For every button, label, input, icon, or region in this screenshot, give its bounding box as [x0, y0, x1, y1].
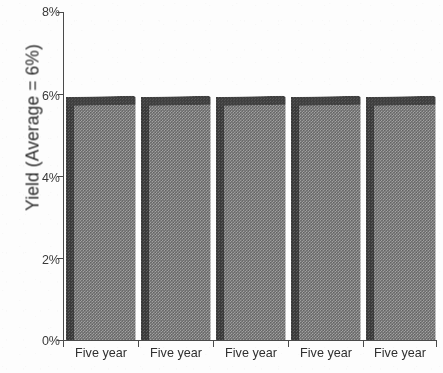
bar-top-face [366, 96, 436, 106]
y-tick-mark-4 [57, 176, 64, 177]
bar-side-face [366, 97, 374, 340]
bar-face [291, 97, 361, 340]
y-tick-mark-8 [57, 12, 64, 13]
bar-top-face [66, 96, 136, 106]
x-tick-label-1: Five year [63, 346, 139, 360]
bar-five-year-4 [291, 97, 361, 340]
bar-five-year-2 [141, 97, 211, 340]
bar-side-face [216, 97, 224, 340]
bar-top-face [291, 96, 361, 106]
y-tick-mark-6 [57, 94, 64, 95]
bar-face [366, 97, 436, 340]
bar-top-face [216, 96, 286, 106]
y-tick-mark-2 [57, 258, 64, 259]
y-tick-label-4: 4% [20, 171, 60, 185]
bar-five-year-1 [66, 97, 136, 340]
bar-five-year-3 [216, 97, 286, 340]
bar-face [141, 97, 211, 340]
bar-side-face [66, 97, 74, 340]
y-tick-label-0: 0% [20, 334, 60, 348]
bar-top-face [141, 96, 211, 106]
chart-figure: Yield (Average = 6%) 8% 6% 4% 2% 0% [0, 0, 443, 373]
plot-area [63, 12, 437, 341]
y-tick-label-6: 6% [20, 89, 60, 103]
bar-face [66, 97, 136, 340]
x-tick-label-4: Five year [288, 346, 364, 360]
y-tick-label-8: 8% [20, 5, 60, 19]
y-axis-tick-labels: 8% 6% 4% 2% 0% [12, 0, 60, 373]
bar-side-face [141, 97, 149, 340]
y-tick-label-2: 2% [20, 253, 60, 267]
bar-five-year-5 [366, 97, 436, 340]
bar-side-face [291, 97, 299, 340]
bar-edge-glow [435, 97, 442, 340]
x-tick-label-3: Five year [213, 346, 289, 360]
bar-face [216, 97, 286, 340]
x-tick-label-2: Five year [138, 346, 214, 360]
x-tick-label-5: Five year [362, 346, 438, 360]
